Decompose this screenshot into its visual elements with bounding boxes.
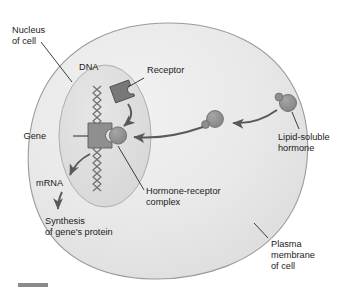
- label-nucleus-line2: of cell: [12, 36, 36, 46]
- label-nucleus-line1: Nucleus: [12, 25, 46, 35]
- label-complex-line1: Hormone-receptor: [146, 186, 221, 196]
- label-synthesis-line1: Synthesis: [45, 216, 85, 226]
- label-mrna: mRNA: [36, 178, 64, 188]
- label-complex-line2: complex: [146, 197, 181, 207]
- label-receptor: Receptor: [147, 65, 184, 75]
- hormone-action-diagram: Nucleus of cell DNA Receptor Gene mRNA S…: [0, 0, 351, 293]
- diagram-canvas: Nucleus of cell DNA Receptor Gene mRNA S…: [0, 0, 351, 293]
- label-gene: Gene: [24, 131, 46, 141]
- label-dna: DNA: [79, 62, 99, 72]
- label-plasma-line2: membrane: [271, 250, 315, 260]
- label-hormone-line2: hormone: [278, 143, 314, 153]
- scale-bar: [18, 283, 48, 287]
- label-plasma-line1: Plasma: [271, 239, 303, 249]
- label-synthesis-line2: of gene's protein: [45, 227, 113, 237]
- label-plasma-line3: of cell: [271, 261, 295, 271]
- hormone-bound-molecule: [109, 127, 126, 144]
- label-hormone-line1: Lipid-soluble: [278, 132, 330, 142]
